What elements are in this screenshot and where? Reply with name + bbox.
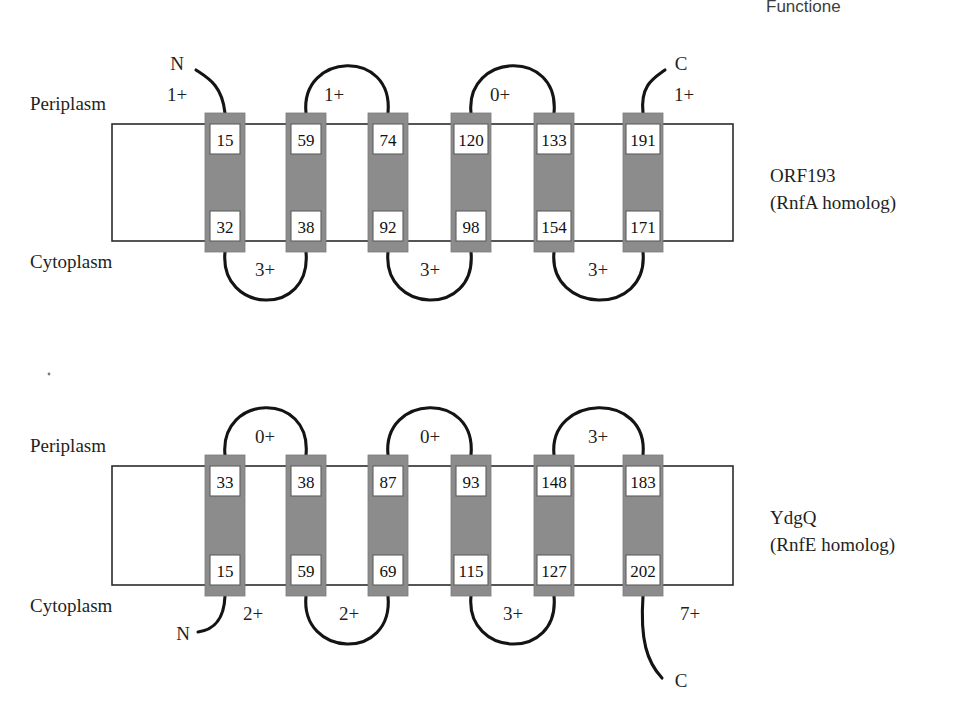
residue-number-top-6-lower: 171	[630, 218, 656, 237]
residue-number-top-6-upper: 191	[630, 131, 656, 150]
residue-number-top-3-lower: 92	[380, 218, 397, 237]
protein-name-bottom-line1: YdgQ	[770, 507, 817, 528]
residue-number-top-2-upper: 59	[298, 131, 315, 150]
cytoplasmic-loop-charge-top-2: 3+	[420, 259, 440, 280]
helix-bottom-5: 148 127	[534, 455, 574, 596]
residue-number-bottom-3-lower: 69	[380, 562, 397, 581]
cytoplasmic-loop-charge-top-3: 3+	[588, 259, 608, 280]
helix-top-3: 74 92	[368, 113, 408, 252]
n-terminus-tail-bottom	[198, 596, 225, 632]
cytoplasm-label-top: Cytoplasm	[30, 251, 113, 272]
helix-bottom-4: 93 115	[451, 455, 491, 596]
periplasmic-loop-top-2	[471, 66, 555, 113]
residue-number-top-4-upper: 120	[458, 131, 484, 150]
helix-top-5: 133 154	[534, 113, 574, 252]
residue-number-top-4-lower: 98	[463, 218, 480, 237]
n-terminus-label-top: N	[170, 53, 184, 74]
diagram-ydgq: Periplasm Cytoplasm 0+ 0+ 3+ 2+ 3+ N 2+ …	[30, 373, 895, 691]
cytoplasm-label-bottom: Cytoplasm	[30, 595, 113, 616]
residue-number-top-1-lower: 32	[217, 218, 234, 237]
n-terminus-charge-top: 1+	[167, 84, 187, 105]
periplasmic-loop-charge-bottom-2: 0+	[420, 426, 440, 447]
periplasmic-loop-charge-top-2: 0+	[490, 84, 510, 105]
cropped-page-header: Functione	[766, 0, 841, 16]
periplasm-label-top: Periplasm	[30, 93, 106, 114]
residue-number-bottom-2-upper: 38	[298, 473, 315, 492]
periplasmic-loop-top-1	[306, 66, 389, 113]
protein-name-top-line1: ORF193	[770, 165, 835, 186]
residue-number-bottom-5-upper: 148	[541, 473, 567, 492]
residue-number-bottom-2-lower: 59	[298, 562, 315, 581]
c-terminus-label-bottom: C	[675, 670, 688, 691]
protein-name-top-line2: (RnfA homolog)	[770, 192, 896, 214]
n-terminus-label-bottom: N	[176, 623, 190, 644]
residue-number-top-1-upper: 15	[217, 131, 234, 150]
n-terminus-tail-top	[196, 70, 225, 113]
figure-canvas: Functione Periplasm Cytoplasm 1+ 0+ N 1+…	[0, 0, 962, 701]
c-terminus-charge-top: 1+	[674, 84, 694, 105]
c-terminus-tail-top	[643, 70, 665, 113]
residue-number-top-5-upper: 133	[541, 131, 567, 150]
membrane-topology-figure: Functione Periplasm Cytoplasm 1+ 0+ N 1+…	[0, 0, 962, 701]
helix-top-2: 59 38	[286, 113, 326, 252]
residue-number-bottom-3-upper: 87	[380, 473, 398, 492]
diagram-orf193: Periplasm Cytoplasm 1+ 0+ N 1+ C 1+ 3+ 3…	[30, 53, 896, 300]
residue-number-bottom-6-lower: 202	[630, 562, 656, 581]
periplasm-label-bottom: Periplasm	[30, 435, 106, 456]
residue-number-bottom-4-lower: 115	[459, 562, 484, 581]
residue-number-top-5-lower: 154	[541, 218, 567, 237]
cytoplasmic-loop-charge-top-1: 3+	[255, 259, 275, 280]
n-terminus-charge-bottom: 2+	[243, 603, 263, 624]
helix-bottom-1: 33 15	[205, 455, 245, 596]
helix-bottom-3: 87 69	[368, 455, 408, 596]
helix-bottom-6: 183 202	[623, 455, 663, 596]
helix-top-1: 15 32	[205, 113, 245, 252]
protein-name-bottom-line2: (RnfE homolog)	[770, 534, 895, 556]
residue-number-bottom-1-upper: 33	[217, 473, 234, 492]
c-terminus-label-top: C	[675, 53, 688, 74]
periplasmic-loop-charge-bottom-3: 3+	[588, 426, 608, 447]
cytoplasmic-loop-charge-bottom-1: 2+	[339, 603, 359, 624]
residue-number-bottom-4-upper: 93	[463, 473, 480, 492]
helix-top-4: 120 98	[451, 113, 491, 252]
residue-number-bottom-5-lower: 127	[541, 562, 567, 581]
c-terminus-charge-bottom: 7+	[680, 603, 700, 624]
residue-number-top-3-upper: 74	[380, 131, 398, 150]
helix-top-6: 191 171	[623, 113, 663, 252]
c-terminus-tail-bottom	[642, 596, 662, 678]
periplasmic-loop-charge-bottom-1: 0+	[255, 426, 275, 447]
cytoplasmic-loop-charge-bottom-2: 3+	[503, 603, 523, 624]
residue-number-bottom-1-lower: 15	[217, 562, 234, 581]
scan-speck	[48, 373, 51, 376]
helix-bottom-2: 38 59	[286, 455, 326, 596]
periplasmic-loop-charge-top-1: 1+	[324, 84, 344, 105]
residue-number-bottom-6-upper: 183	[630, 473, 656, 492]
residue-number-top-2-lower: 38	[298, 218, 315, 237]
